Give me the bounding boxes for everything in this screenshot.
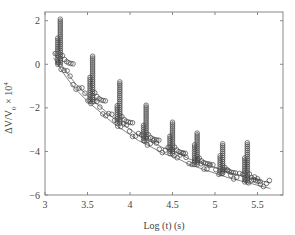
x-tick-label: 4.5 (166, 199, 179, 210)
x-tick-label: 3 (43, 199, 48, 210)
y-tick-label: 2 (35, 15, 40, 26)
y-axis-label: ΔV/V0 × 104 (2, 82, 18, 134)
x-tick-label: 5.5 (251, 199, 264, 210)
data-points (53, 17, 272, 189)
relaxation-chart: 33.544.555.5−6−4−202 Log (t) (s) ΔV/V0 ×… (0, 0, 295, 235)
y-tick-label: 0 (35, 59, 40, 70)
x-tick-label: 3.5 (81, 199, 94, 210)
x-tick-label: 5 (213, 199, 218, 210)
x-axis-label: Log (t) (s) (143, 220, 184, 232)
y-tick-label: −2 (29, 102, 40, 113)
y-tick-label: −4 (29, 146, 40, 157)
x-tick-label: 4 (128, 199, 133, 210)
y-tick-label: −6 (29, 190, 40, 201)
